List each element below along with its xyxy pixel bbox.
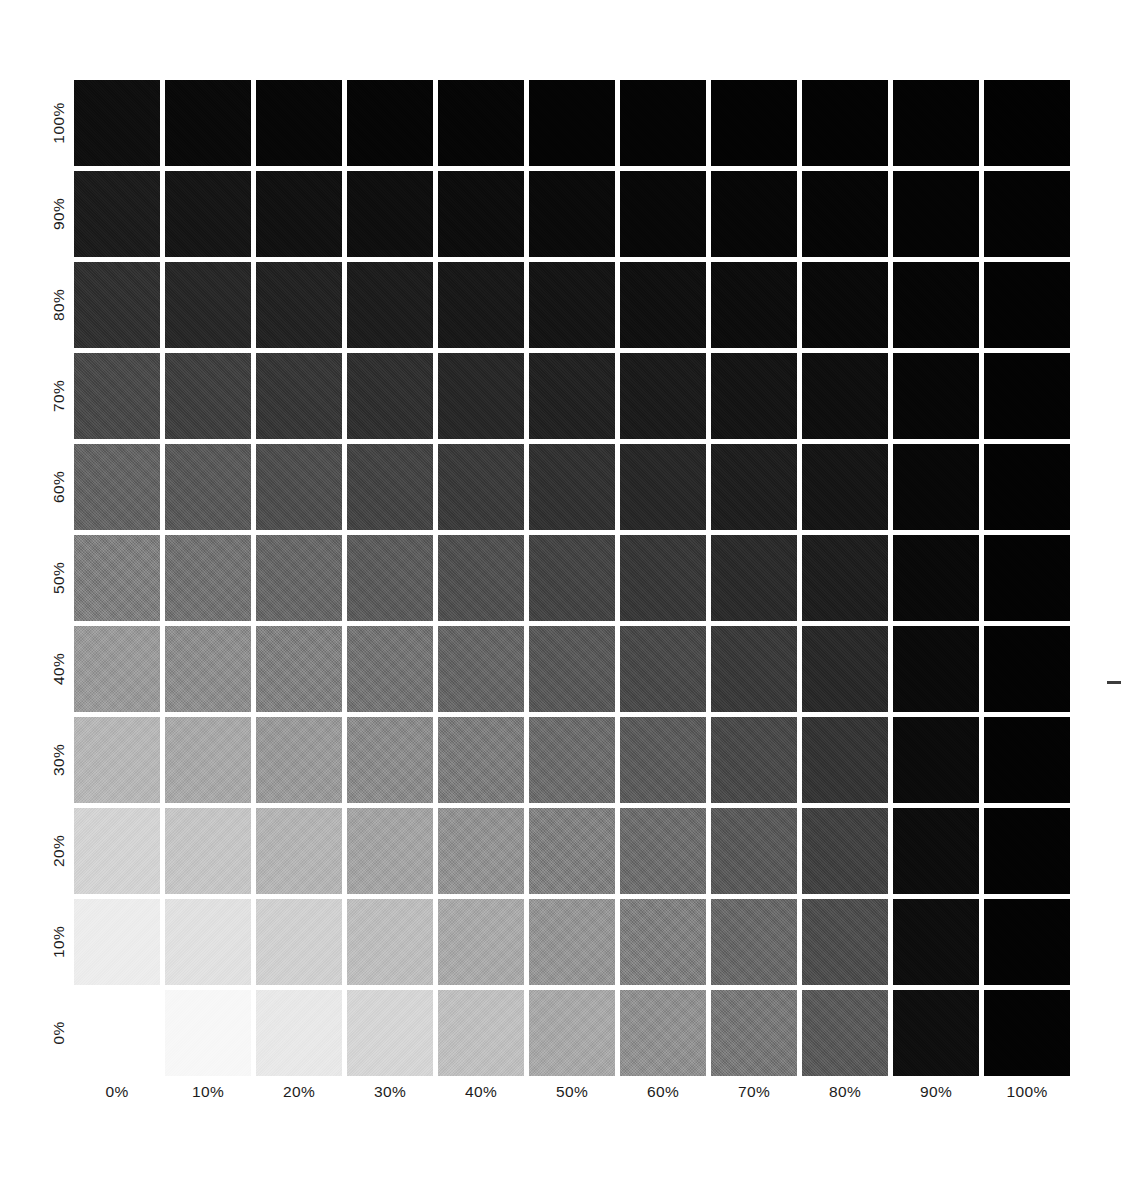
- page-root: Tint Overprint Density Grid 100%90%80%70…: [0, 0, 1123, 1192]
- x-axis-tick-label: 50%: [556, 1083, 588, 1101]
- tint-patch: [802, 353, 888, 439]
- tint-patch: [893, 990, 979, 1076]
- tint-patch: [802, 717, 888, 803]
- tint-patch: [984, 535, 1070, 621]
- tint-patch: [256, 444, 342, 530]
- tint-patch: [256, 80, 342, 166]
- tint-patch: [984, 899, 1070, 985]
- x-axis-tick: 10%: [165, 1083, 251, 1113]
- patch-grid: [74, 80, 1073, 1077]
- tint-patch: [802, 171, 888, 257]
- tint-patch: [347, 353, 433, 439]
- tint-patch: [165, 80, 251, 166]
- tint-patch: [438, 262, 524, 348]
- tint-patch: [347, 80, 433, 166]
- tint-patch: [256, 353, 342, 439]
- tint-patch: [711, 262, 797, 348]
- tint-patch: [529, 262, 615, 348]
- y-axis-tick-label: 50%: [50, 562, 68, 594]
- x-axis-tick-label: 60%: [647, 1083, 679, 1101]
- tint-patch: [529, 899, 615, 985]
- tint-patch: [165, 626, 251, 712]
- tint-patch: [984, 171, 1070, 257]
- x-axis-tick: 80%: [802, 1083, 888, 1113]
- tint-patch: [620, 990, 706, 1076]
- tint-patch: [438, 717, 524, 803]
- tint-patch: [802, 80, 888, 166]
- tint-patch: [620, 262, 706, 348]
- tint-patch: [529, 444, 615, 530]
- tint-patch: [893, 80, 979, 166]
- x-axis-tick: 90%: [893, 1083, 979, 1113]
- y-axis-tick: 80%: [44, 262, 74, 348]
- y-axis-tick-label: 90%: [50, 198, 68, 230]
- tint-patch: [802, 535, 888, 621]
- x-axis-tick-label: 40%: [465, 1083, 497, 1101]
- x-axis-tick-label: 0%: [105, 1083, 128, 1101]
- y-axis-tick: 100%: [44, 80, 74, 166]
- tint-patch: [711, 990, 797, 1076]
- tint-patch: [438, 444, 524, 530]
- tint-patch: [438, 808, 524, 894]
- tint-patch: [893, 353, 979, 439]
- tint-patch: [984, 80, 1070, 166]
- tint-patch: [893, 535, 979, 621]
- tint-patch: [165, 262, 251, 348]
- tint-patch: [74, 717, 160, 803]
- y-axis-tick: 20%: [44, 808, 74, 894]
- y-axis-tick: 50%: [44, 535, 74, 621]
- y-axis-tick: 60%: [44, 444, 74, 530]
- x-axis-tick-label: 80%: [829, 1083, 861, 1101]
- tint-patch: [802, 444, 888, 530]
- tint-patch: [438, 626, 524, 712]
- tint-patch: [347, 626, 433, 712]
- x-axis-tick-label: 70%: [738, 1083, 770, 1101]
- tint-patch: [984, 444, 1070, 530]
- tint-patch: [802, 262, 888, 348]
- x-axis-tick: 30%: [347, 1083, 433, 1113]
- tint-patch: [347, 899, 433, 985]
- tint-patch: [438, 171, 524, 257]
- x-axis-tick: 20%: [256, 1083, 342, 1113]
- x-axis-tick-label: 100%: [1006, 1083, 1047, 1101]
- tint-patch: [256, 899, 342, 985]
- tint-patch: [620, 80, 706, 166]
- tint-patch: [711, 808, 797, 894]
- tint-patch: [529, 717, 615, 803]
- tint-patch: [984, 990, 1070, 1076]
- tint-patch: [711, 717, 797, 803]
- tint-patch: [165, 444, 251, 530]
- tint-patch: [529, 626, 615, 712]
- x-axis-tick: 70%: [711, 1083, 797, 1113]
- tint-patch: [711, 80, 797, 166]
- tint-patch: [984, 353, 1070, 439]
- tint-patch: [256, 626, 342, 712]
- x-axis-tick: 100%: [984, 1083, 1070, 1113]
- tint-patch: [74, 444, 160, 530]
- tint-patch: [256, 808, 342, 894]
- tint-patch: [256, 990, 342, 1076]
- crop-registration-mark: [1107, 681, 1121, 684]
- tint-patch: [74, 626, 160, 712]
- tint-patch: [711, 626, 797, 712]
- tint-patch: [620, 717, 706, 803]
- tint-patch: [438, 990, 524, 1076]
- tint-patch: [74, 353, 160, 439]
- tint-patch: [347, 171, 433, 257]
- tint-patch: [529, 808, 615, 894]
- tint-patch: [347, 262, 433, 348]
- y-axis-tick: 0%: [44, 990, 74, 1076]
- y-axis-tick-label: 0%: [50, 1021, 68, 1044]
- y-axis-tick-label: 80%: [50, 289, 68, 321]
- tint-patch: [74, 171, 160, 257]
- tint-patch: [711, 899, 797, 985]
- tint-patch: [347, 990, 433, 1076]
- y-axis-tick: 10%: [44, 899, 74, 985]
- tint-patch: [165, 717, 251, 803]
- tint-patch: [74, 899, 160, 985]
- tint-patch: [438, 535, 524, 621]
- y-axis-tick-label: 40%: [50, 653, 68, 685]
- tint-patch: [802, 626, 888, 712]
- tint-patch: [802, 899, 888, 985]
- tint-patch: [620, 171, 706, 257]
